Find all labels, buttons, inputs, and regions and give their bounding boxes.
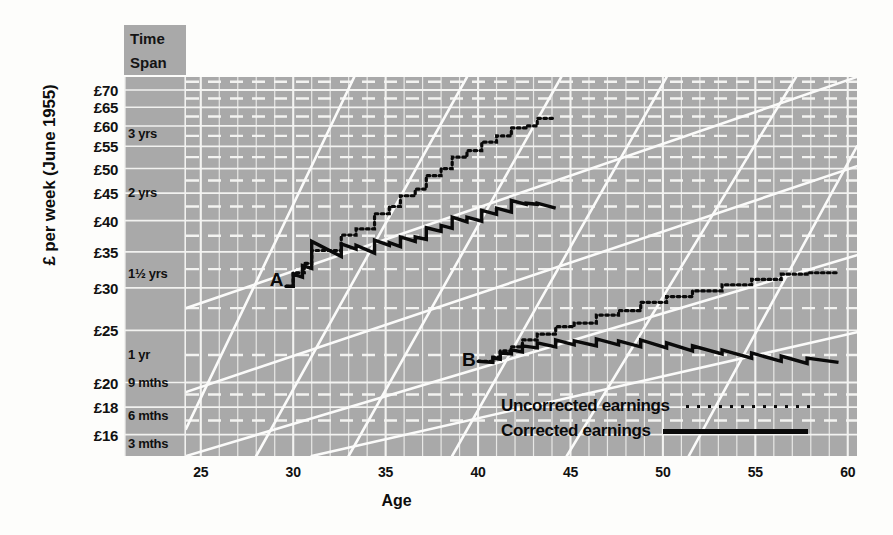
chart-root: £ per week (June 1955) £16£18£20£25£30£3… — [0, 0, 893, 535]
chart-legend: Uncorrected earnings Corrected earnings — [501, 396, 831, 446]
x-tick-30: 30 — [273, 464, 313, 480]
x-tick-45: 45 — [550, 464, 590, 480]
legend-swatch-solid-line — [663, 429, 808, 434]
y-tick-60: £60 — [52, 119, 118, 134]
y-tick-45: £45 — [52, 186, 118, 201]
legend-label-uncorrected: Uncorrected earnings — [501, 396, 670, 416]
x-tick-55: 55 — [735, 464, 775, 480]
y-tick-55: £55 — [52, 139, 118, 154]
time-span-axis: 3 yrs2 yrs1½ yrs1 yr9 mths6 mths3 mths — [124, 77, 186, 456]
y-tick-30: £30 — [52, 281, 118, 296]
y-tick-35: £35 — [52, 245, 118, 260]
time-span-tick-label: 1½ yrs — [128, 266, 167, 281]
annotation-B: B — [462, 349, 476, 370]
x-axis-title-text: Age — [381, 492, 411, 509]
x-tick-60: 60 — [828, 464, 868, 480]
x-tick-35: 35 — [366, 464, 406, 480]
legend-item-corrected: Corrected earnings — [501, 421, 808, 445]
time-span-tick-label: 1 yr — [128, 347, 150, 362]
legend-swatch-dotted-line — [682, 404, 814, 409]
legend-item-uncorrected: Uncorrected earnings — [501, 396, 814, 420]
time-span-header-line2: Span — [130, 51, 186, 75]
y-tick-50: £50 — [52, 162, 118, 177]
time-span-tick-label: 3 yrs — [128, 126, 157, 141]
y-tick-70: £70 — [52, 83, 118, 98]
y-tick-16: £16 — [52, 428, 118, 443]
legend-label-corrected: Corrected earnings — [501, 421, 651, 441]
x-tick-40: 40 — [458, 464, 498, 480]
time-span-tick-label: 9 mths — [128, 375, 168, 390]
time-span-header-line1: Time — [130, 27, 186, 51]
time-span-tick-label: 2 yrs — [128, 185, 157, 200]
time-span-tick-label: 6 mths — [128, 408, 168, 423]
time-span-header: Time Span — [124, 25, 186, 75]
x-tick-50: 50 — [643, 464, 683, 480]
x-tick-25: 25 — [181, 464, 221, 480]
y-tick-40: £40 — [52, 214, 118, 229]
y-tick-18: £18 — [52, 400, 118, 415]
y-tick-20: £20 — [52, 376, 118, 391]
annotation-A: A — [270, 269, 284, 290]
time-span-tick-label: 3 mths — [128, 436, 168, 451]
y-tick-25: £25 — [52, 323, 118, 338]
y-tick-65: £65 — [52, 100, 118, 115]
x-axis-title: Age — [0, 492, 893, 510]
y-axis-tick-labels: £16£18£20£25£30£35£40£45£50£55£60£65£70 — [50, 0, 118, 535]
